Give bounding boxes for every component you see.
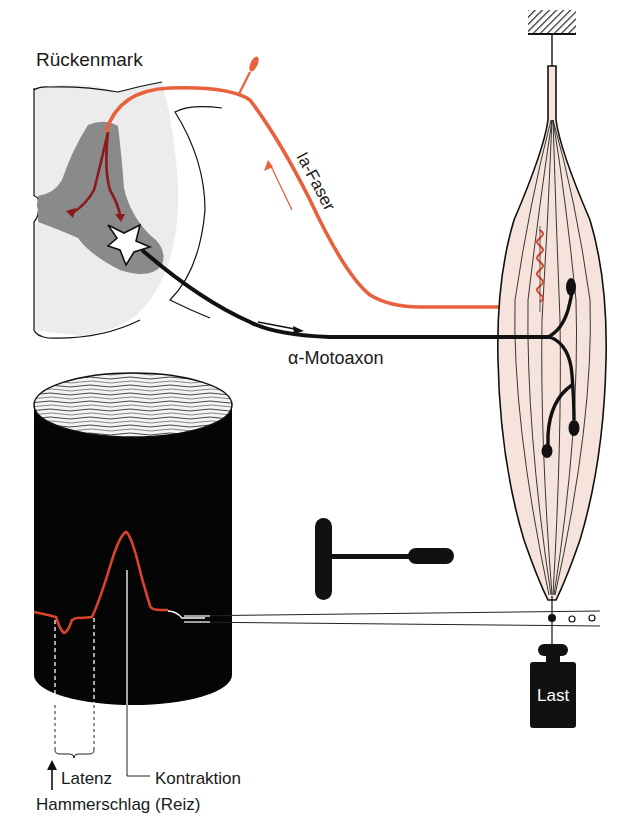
latency-brace	[55, 750, 94, 758]
reflex-hammer-icon	[315, 518, 454, 600]
muscle	[498, 10, 606, 600]
spinal-cord-cross-section	[34, 82, 222, 338]
drum-top-surface	[34, 373, 232, 437]
label-hammer-stimulus: Hammerschlag (Reiz)	[36, 795, 200, 814]
label-contraction: Kontraktion	[155, 769, 241, 788]
lever-writer	[168, 596, 600, 645]
label-latency: Latenz	[61, 769, 112, 788]
label-spinal-cord: Rückenmark	[36, 49, 143, 70]
label-alpha-motoaxon: α-Motoaxon	[288, 348, 383, 368]
stretch-reflex-diagram: Rückenmark Ia-Faser	[0, 0, 634, 822]
label-load: Last	[537, 686, 569, 705]
fixation-block	[528, 10, 576, 34]
stimulus-arrow-icon	[47, 760, 57, 770]
kymograph-drum	[34, 373, 232, 772]
